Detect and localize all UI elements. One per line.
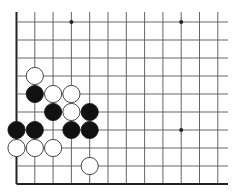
- white-stone[interactable]: [45, 85, 62, 102]
- white-stone[interactable]: [63, 103, 80, 120]
- go-board[interactable]: [0, 0, 239, 194]
- star-point-icon: [179, 128, 183, 132]
- white-stone[interactable]: [45, 139, 62, 156]
- black-stone[interactable]: [26, 121, 43, 138]
- go-board-canvas[interactable]: [0, 0, 239, 194]
- star-point-icon: [69, 20, 73, 24]
- black-stone[interactable]: [63, 121, 80, 138]
- black-stone[interactable]: [8, 121, 25, 138]
- star-point-icon: [179, 20, 183, 24]
- white-stone[interactable]: [26, 67, 43, 84]
- black-stone[interactable]: [45, 103, 62, 120]
- white-stone[interactable]: [81, 157, 98, 174]
- white-stone[interactable]: [63, 85, 80, 102]
- black-stone[interactable]: [81, 121, 98, 138]
- white-stone[interactable]: [26, 139, 43, 156]
- black-stone[interactable]: [81, 103, 98, 120]
- white-stone[interactable]: [8, 139, 25, 156]
- black-stone[interactable]: [26, 85, 43, 102]
